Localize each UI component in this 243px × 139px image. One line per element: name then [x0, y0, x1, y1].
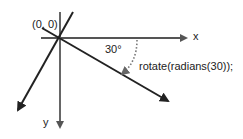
x-axis-label: x [193, 31, 199, 42]
rotation-arc [122, 40, 137, 74]
origin-label: (0, 0) [32, 19, 58, 30]
code-label: rotate(radians(30)); [139, 61, 233, 72]
angle-label: 30° [105, 44, 122, 55]
y-axis-label: y [43, 117, 49, 128]
